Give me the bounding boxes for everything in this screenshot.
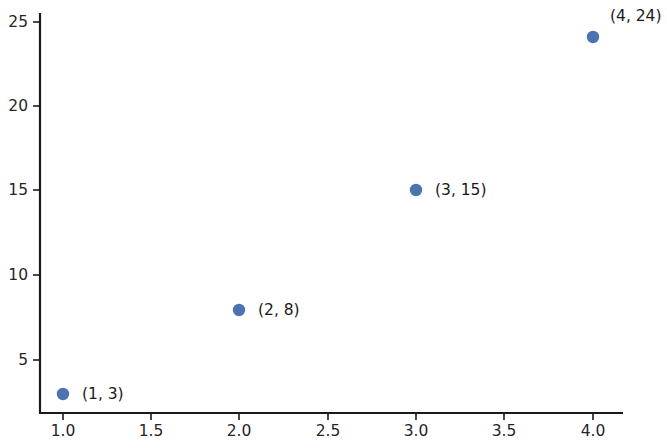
x-tick-label: 4.0 <box>581 422 606 440</box>
y-tick-label: 25 <box>8 13 28 31</box>
plot-canvas: 25 20 15 10 5 1.0 1.5 2.0 2.5 3.0 3.5 4.… <box>0 0 667 448</box>
scatter-plot-figure: 25 20 15 10 5 1.0 1.5 2.0 2.5 3.0 3.5 4.… <box>0 0 667 448</box>
data-point-marker[interactable] <box>57 388 69 400</box>
x-tick-label: 3.5 <box>492 422 517 440</box>
y-tick-label: 10 <box>8 266 28 284</box>
data-point-marker[interactable] <box>410 184 422 196</box>
data-point-marker[interactable] <box>233 304 245 316</box>
x-tick-label: 2.5 <box>316 422 341 440</box>
x-tick-label: 3.0 <box>404 422 429 440</box>
x-tick-label: 2.0 <box>227 422 252 440</box>
x-tick-label: 1.0 <box>51 422 76 440</box>
data-point-marker[interactable] <box>587 31 599 43</box>
plot-background <box>0 0 667 448</box>
x-tick-label: 1.5 <box>139 422 164 440</box>
point-annotation: (4, 24) <box>610 7 662 25</box>
point-annotation: (2, 8) <box>258 301 300 319</box>
y-tick-label: 15 <box>8 181 28 199</box>
point-annotation: (3, 15) <box>435 181 487 199</box>
y-tick-label: 20 <box>8 97 28 115</box>
y-tick-label: 5 <box>18 351 28 369</box>
point-annotation: (1, 3) <box>82 385 124 403</box>
